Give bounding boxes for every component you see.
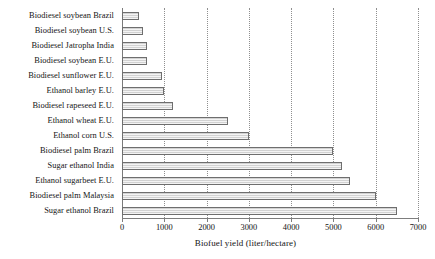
x-tick-label: 5000: [325, 223, 342, 233]
bar: [122, 72, 162, 80]
category-axis-labels: Biodiesel soybean BrazilBiodiesel soybea…: [0, 0, 118, 218]
category-label: Biodiesel sunflower E.U.: [28, 71, 114, 80]
x-tick-2000: [207, 218, 208, 222]
category-label: Biodiesel Jatropha India: [31, 41, 114, 50]
x-tick-3000: [249, 218, 250, 222]
x-tick-6000: [376, 218, 377, 222]
bar: [122, 102, 173, 110]
category-label: Biodiesel soybean E.U.: [34, 56, 114, 65]
x-tick-label: 4000: [283, 223, 300, 233]
gridline-6000: [376, 8, 377, 218]
bar: [122, 192, 376, 200]
biofuel-yield-bar-chart: Biodiesel soybean BrazilBiodiesel soybea…: [0, 0, 435, 259]
x-tick-label: 6000: [367, 223, 384, 233]
gridline-0: [122, 8, 123, 218]
category-label: Biodiesel rapeseed E.U.: [32, 101, 114, 110]
gridline-3000: [249, 8, 250, 218]
bar: [122, 87, 164, 95]
bar: [122, 207, 397, 215]
plot-area: [122, 8, 418, 218]
bar: [122, 42, 147, 50]
category-label: Ethanol barley E.U.: [47, 86, 114, 95]
bar: [122, 132, 249, 140]
category-label: Ethanol corn U.S.: [53, 131, 114, 140]
bar: [122, 162, 342, 170]
category-label: Sugar ethanol Brazil: [44, 206, 114, 215]
category-label: Biodiesel soybean U.S.: [35, 26, 114, 35]
gridline-7000: [418, 8, 419, 218]
x-tick-label: 1000: [156, 223, 173, 233]
x-axis-title: Biofuel yield (liter/hectare): [0, 238, 435, 248]
bar: [122, 147, 333, 155]
x-tick-0: [122, 218, 123, 222]
x-tick-label: 7000: [410, 223, 427, 233]
x-tick-label: 3000: [240, 223, 257, 233]
bar: [122, 177, 350, 185]
gridline-2000: [207, 8, 208, 218]
gridline-5000: [333, 8, 334, 218]
x-tick-5000: [333, 218, 334, 222]
bar: [122, 117, 228, 125]
category-label: Ethanol sugarbeet E.U.: [35, 176, 114, 185]
x-tick-4000: [291, 218, 292, 222]
x-tick-7000: [418, 218, 419, 222]
category-label: Biodiesel palm Malaysia: [30, 191, 114, 200]
x-tick-label: 2000: [198, 223, 215, 233]
gridline-1000: [164, 8, 165, 218]
x-tick-1000: [164, 218, 165, 222]
x-tick-label: 0: [120, 223, 124, 233]
bar: [122, 12, 139, 20]
gridline-4000: [291, 8, 292, 218]
bar: [122, 57, 147, 65]
x-axis-title-text: Biofuel yield (liter/hectare): [139, 238, 296, 248]
category-label: Biodiesel palm Brazil: [40, 146, 114, 155]
x-axis-line: [122, 218, 418, 219]
bar: [122, 27, 143, 35]
category-label: Ethanol wheat E.U.: [48, 116, 115, 125]
category-label: Biodiesel soybean Brazil: [29, 11, 114, 20]
category-label: Sugar ethanol India: [47, 161, 114, 170]
